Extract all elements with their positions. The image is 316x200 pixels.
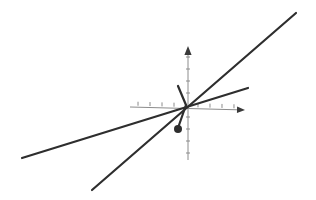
marker-group [174,125,182,133]
y-axis-arrowhead [184,46,191,55]
marker-data-point [174,125,182,133]
plot-figure [0,0,316,200]
x-axis-arrowhead [237,107,245,113]
series-line-shallow-line [22,88,248,158]
series-line-steep-line [92,13,296,190]
series-line-short-segment-up-left [178,86,186,105]
plot-canvas [0,0,316,200]
series-group [22,13,296,190]
